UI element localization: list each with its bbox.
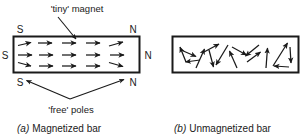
caption-b-text: Unmagnetized bar [189,123,271,134]
free-poles-leader-right [70,80,124,100]
pole-label-north-bottom: N [129,77,136,88]
panel-b-unmagnetized-bar [173,37,299,73]
caption-b: (b)Unmagnetized bar [174,123,272,134]
figure-canvas: S S S N N N [0,0,307,135]
pole-label-south-top: S [17,24,24,35]
pole-label-south-middle: S [2,50,9,61]
free-poles-annotation: 'free' poles [48,104,94,115]
magnetic-domains-figure: S S S N N N [0,0,307,135]
caption-a-text: Magnetized bar [32,123,102,134]
free-poles-leader-left [27,81,71,100]
tiny-magnet-annotation: 'tiny' magnet [51,3,104,14]
pole-label-south-bottom: S [17,77,24,88]
panel-a-magnetized-bar: S S S N N N [2,17,152,99]
pole-label-north-middle: N [144,50,151,61]
caption-b-marker: (b) [174,123,186,134]
caption-a-marker: (a) [17,123,29,134]
pole-label-north-top: N [129,24,136,35]
svg-text:(b)Unmagnetized bar: (b)Unmagnetized bar [174,123,272,134]
svg-text:(a)Magnetized bar: (a)Magnetized bar [17,123,102,134]
caption-a: (a)Magnetized bar [17,123,102,134]
